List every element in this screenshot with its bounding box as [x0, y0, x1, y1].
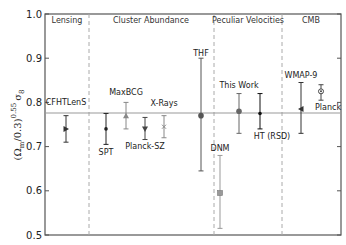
ytick-label: 0.6: [26, 185, 42, 196]
data-point-cfhtlens: [64, 116, 70, 143]
chart: 0.50.60.70.80.91.0(Ωm/0.3)0.55σ8LensingC…: [0, 0, 346, 245]
point-label: Planck-SZ: [125, 142, 165, 151]
point-label: X-Rays: [150, 99, 177, 108]
point-label: THF: [192, 49, 209, 58]
ytick-label: 0.7: [26, 141, 42, 152]
circle-marker: [198, 113, 204, 119]
section-label-cluster-abundance: Cluster Abundance: [113, 16, 189, 25]
point-label: SPT: [99, 148, 114, 157]
point-label: This Work: [218, 81, 259, 90]
ytick-label: 0.8: [26, 97, 42, 108]
data-point-planck: [319, 85, 324, 100]
triangle-down-marker: [142, 126, 148, 132]
data-point-dnm: [218, 155, 223, 228]
data-point-ht-rsd-: [258, 94, 263, 129]
data-point-x-rays: [162, 116, 167, 138]
dot-marker: [104, 127, 108, 131]
data-point-spt: [104, 113, 109, 144]
point-label: HT (RSD): [254, 132, 290, 141]
y-axis-label: (Ωm/0.3)0.55σ8: [10, 90, 26, 161]
section-label-peculiar-velocities: Peculiar Velocities: [212, 16, 284, 25]
section-label-cmb: CMB: [302, 16, 320, 25]
point-label: WMAP-9: [285, 71, 318, 80]
data-point-maxbcg: [123, 102, 129, 129]
square-marker: [218, 191, 223, 196]
data-point-thf: [198, 58, 204, 171]
circle-marker: [236, 108, 242, 114]
section-label-lensing: Lensing: [52, 16, 83, 25]
point-label: CFHTLenS: [46, 98, 86, 107]
dot-marker: [258, 112, 262, 116]
point-label: MaxBCG: [109, 88, 143, 97]
data-point-wmap-9: [298, 83, 304, 134]
circle-dot-center: [320, 90, 322, 92]
data-point-planck-sz: [142, 117, 148, 139]
plot-frame: [45, 14, 341, 235]
ytick-label: 1.0: [26, 9, 42, 20]
ytick-label: 0.9: [26, 53, 42, 64]
ytick-label: 0.5: [26, 230, 42, 241]
point-label: DNM: [210, 144, 229, 153]
point-label: Planck: [315, 103, 341, 112]
